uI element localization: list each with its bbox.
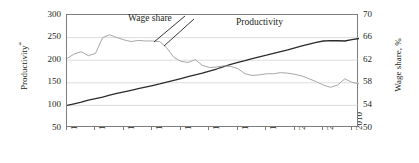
y-axis-left-title-asterisk: * [17, 42, 25, 46]
y-axis-left-title-text: Productivity [19, 46, 29, 91]
y-axis-left-tick-label: 50 [35, 123, 61, 132]
y-axis-left-tick-label: 100 [35, 100, 61, 109]
y-axis-right-tick-label: 62 [363, 55, 389, 64]
chart-figure: Productivity* Wage share, % 501001502002… [0, 0, 419, 163]
y-axis-right-tick-label: 58 [363, 77, 389, 86]
y-axis-left-tick-label: 200 [35, 55, 61, 64]
y-axis-right-tick-label: 70 [363, 10, 389, 19]
y-axis-left-tick-label: 250 [35, 32, 61, 41]
y-axis-right-tick-label: 66 [363, 32, 389, 41]
annotation-productivity: Productivity [236, 17, 283, 27]
chart-canvas [67, 15, 359, 128]
y-axis-right-title: Wage share, % [393, 20, 403, 110]
y-axis-left-title: Productivity* [17, 21, 29, 111]
y-axis-right-tick-label: 50 [363, 123, 389, 132]
plot-area [66, 14, 358, 127]
y-axis-left-tick-label: 150 [35, 77, 61, 86]
annotation-wage-share: Wage share [128, 13, 172, 23]
y-axis-right-tick-label: 54 [363, 100, 389, 109]
y-axis-left-tick-label: 300 [35, 10, 61, 19]
